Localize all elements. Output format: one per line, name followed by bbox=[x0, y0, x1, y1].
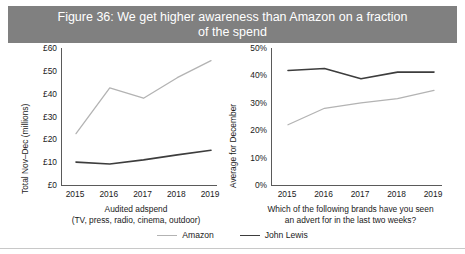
x-axis-ticks-adspend: 20152016201720182019 bbox=[61, 189, 216, 201]
chart-panel-awareness: Average for December 0%10%20%30%40%50% 2… bbox=[224, 48, 457, 226]
line-series-amazon bbox=[76, 61, 211, 134]
x-tick-label: 2017 bbox=[351, 189, 370, 199]
x-axis-title-awareness-line-1: Which of the following brands have you s… bbox=[248, 204, 453, 215]
y-tick-label: £40 bbox=[43, 89, 57, 99]
x-tick-label: 2018 bbox=[167, 189, 186, 199]
y-tick-label: £10 bbox=[43, 157, 57, 167]
y-tick-label: £0 bbox=[48, 180, 57, 190]
line-series-john-lewis bbox=[76, 150, 211, 164]
x-axis-title-adspend-line-2: (TV, press, radio, cinema, outdoor) bbox=[48, 215, 224, 226]
y-tick-label: 20% bbox=[250, 125, 267, 135]
page-divider bbox=[0, 248, 465, 249]
x-tick-label: 2018 bbox=[387, 189, 406, 199]
legend-swatch-john-lewis bbox=[240, 235, 260, 236]
y-tick-label: 0% bbox=[255, 180, 267, 190]
y-axis-title-awareness: Average for December bbox=[228, 104, 238, 188]
figure-title-line-2: of the spend bbox=[58, 25, 408, 40]
line-series-amazon bbox=[288, 90, 434, 124]
x-tick-label: 2019 bbox=[201, 189, 220, 199]
figure-container: Figure 36: We get higher awareness than … bbox=[0, 0, 465, 254]
y-tick-label: £20 bbox=[43, 134, 57, 144]
x-axis-title-adspend: Audited adspend (TV, press, radio, cinem… bbox=[48, 204, 224, 225]
x-tick-label: 2015 bbox=[66, 189, 85, 199]
x-tick-label: 2015 bbox=[278, 189, 297, 199]
plot-lines-adspend bbox=[62, 48, 217, 185]
x-tick-label: 2016 bbox=[99, 189, 118, 199]
x-tick-label: 2019 bbox=[424, 189, 443, 199]
chart-legend: Amazon John Lewis bbox=[0, 228, 465, 242]
line-series-john-lewis bbox=[288, 69, 434, 79]
x-axis-title-adspend-line-1: Audited adspend bbox=[48, 204, 224, 215]
y-tick-label: 50% bbox=[250, 43, 267, 53]
legend-item-amazon: Amazon bbox=[157, 230, 214, 240]
y-tick-label: £60 bbox=[43, 43, 57, 53]
y-axis-ticks-awareness: 0%10%20%30%40%50% bbox=[240, 48, 267, 185]
y-axis-title-adspend: Total Nov–Dec (millions) bbox=[20, 104, 30, 194]
legend-swatch-amazon bbox=[157, 235, 177, 236]
y-tick-label: 10% bbox=[250, 153, 267, 163]
plot-lines-awareness bbox=[272, 48, 442, 185]
x-tick-label: 2017 bbox=[133, 189, 152, 199]
chart-panel-adspend: Total Nov–Dec (millions) £0£10£20£30£40£… bbox=[8, 48, 224, 226]
figure-title-bar: Figure 36: We get higher awareness than … bbox=[8, 6, 457, 43]
y-tick-label: £30 bbox=[43, 112, 57, 122]
y-tick-label: 30% bbox=[250, 98, 267, 108]
x-tick-label: 2016 bbox=[314, 189, 333, 199]
x-axis-ticks-awareness: 20152016201720182019 bbox=[271, 189, 441, 201]
legend-label-amazon: Amazon bbox=[182, 230, 214, 240]
y-axis-ticks-adspend: £0£10£20£30£40£50£60 bbox=[30, 48, 57, 185]
legend-item-john-lewis: John Lewis bbox=[240, 230, 308, 240]
y-tick-label: £50 bbox=[43, 66, 57, 76]
x-axis-title-awareness-line-2: an advert for in the last two weeks? bbox=[248, 215, 453, 226]
legend-label-john-lewis: John Lewis bbox=[265, 230, 308, 240]
x-axis-title-awareness: Which of the following brands have you s… bbox=[248, 204, 453, 225]
y-tick-label: 40% bbox=[250, 70, 267, 80]
plot-area-adspend bbox=[61, 48, 217, 186]
figure-title-line-1: Figure 36: We get higher awareness than … bbox=[58, 10, 408, 25]
plot-area-awareness bbox=[271, 48, 442, 186]
